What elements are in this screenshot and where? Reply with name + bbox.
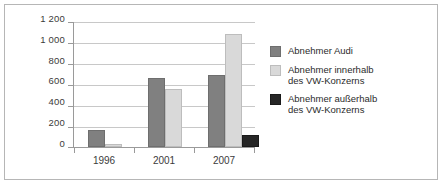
category-label-1996: 1996	[93, 155, 115, 166]
legend-item-abnehmer-audi: Abnehmer Audi	[270, 45, 435, 57]
y-tick-label-1000: 1 000	[40, 34, 65, 45]
legend-label: Abnehmer außerhalb des VW-Konzerns	[288, 93, 377, 115]
legend-label: Abnehmer Audi	[288, 45, 353, 56]
plot-area	[74, 22, 255, 147]
dark-gray-swatch-icon	[270, 46, 281, 57]
category-tick	[254, 148, 255, 153]
category-label-2001: 2001	[153, 155, 175, 166]
legend-item-abnehmer-innerhalb: Abnehmer innerhalb des VW-Konzerns	[270, 64, 435, 86]
y-tick-label-1200: 1 200	[40, 13, 65, 24]
gridline-1200	[74, 22, 255, 23]
chart-frame: 1 200 1 000 800 600 400 200 0	[4, 4, 438, 180]
bar-2007-innerhalb	[225, 34, 242, 147]
category-label-2007: 2007	[213, 155, 235, 166]
y-tick-label-200: 200	[49, 117, 65, 128]
y-tick-label-400: 400	[49, 96, 65, 107]
chart-legend: Abnehmer Audi Abnehmer innerhalb des VW-…	[270, 45, 435, 122]
category-tick	[134, 148, 135, 153]
bar-1996-audi	[88, 130, 105, 147]
bar-1996-innerhalb	[105, 144, 122, 147]
bar-2007-ausserhalb	[242, 135, 259, 147]
y-tick-label-600: 600	[49, 75, 65, 86]
light-gray-swatch-icon	[270, 65, 281, 76]
legend-item-abnehmer-ausserhalb: Abnehmer außerhalb des VW-Konzerns	[270, 93, 435, 115]
bar-2001-audi	[148, 78, 165, 147]
y-axis-tick-labels: 1 200 1 000 800 600 400 200 0	[5, 5, 65, 187]
legend-label: Abnehmer innerhalb des VW-Konzerns	[288, 64, 374, 86]
bar-2001-innerhalb	[165, 89, 182, 147]
category-tick	[194, 148, 195, 153]
y-tick-label-0: 0	[60, 138, 65, 149]
category-tick	[74, 148, 75, 153]
bar-2007-audi	[208, 75, 225, 147]
black-swatch-icon	[270, 94, 281, 105]
gridline-baseline-0	[74, 147, 255, 148]
y-tick-label-800: 800	[49, 55, 65, 66]
